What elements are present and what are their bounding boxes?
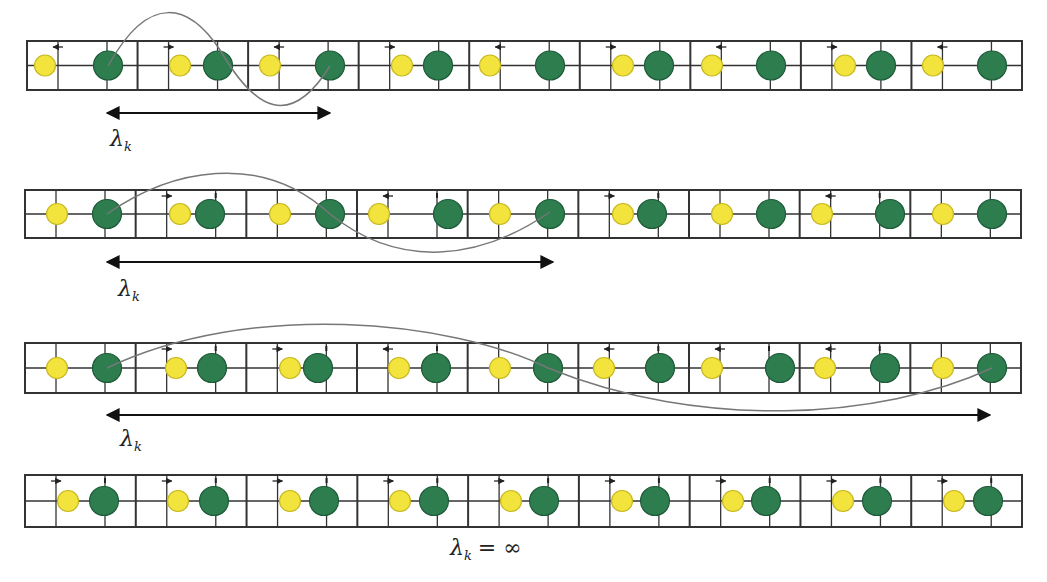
light-atom: [369, 204, 390, 225]
phonon-chain-diagram: [0, 0, 1047, 582]
heavy-atom: [200, 487, 229, 516]
heavy-atom: [310, 487, 339, 516]
light-atom: [501, 491, 522, 512]
heavy-atom: [316, 51, 345, 80]
heavy-atom: [536, 200, 565, 229]
light-atom: [166, 358, 187, 379]
light-atom: [835, 55, 856, 76]
heavy-atom: [863, 487, 892, 516]
heavy-atom: [876, 200, 905, 229]
wavelength-label: λk: [110, 126, 132, 154]
atom-chain-3: [25, 324, 1021, 415]
heavy-atom: [757, 200, 786, 229]
heavy-atom: [204, 51, 233, 80]
light-atom: [702, 55, 723, 76]
atom-chain-1: [27, 13, 1022, 113]
heavy-atom: [304, 354, 333, 383]
light-atom: [58, 491, 79, 512]
light-atom: [47, 204, 68, 225]
light-atom: [723, 491, 744, 512]
light-atom: [280, 358, 301, 379]
light-atom: [35, 55, 56, 76]
atom-chain-2: [25, 173, 1021, 262]
heavy-atom: [867, 51, 896, 80]
heavy-atom: [645, 51, 674, 80]
light-atom: [933, 204, 954, 225]
heavy-atom: [766, 354, 795, 383]
light-atom: [833, 491, 854, 512]
heavy-atom: [536, 51, 565, 80]
light-atom: [280, 491, 301, 512]
heavy-atom: [434, 200, 463, 229]
heavy-atom: [978, 51, 1007, 80]
atom-chain-4: [25, 475, 1022, 527]
light-atom: [168, 491, 189, 512]
heavy-atom: [974, 487, 1003, 516]
wavelength-label: λk= ∞: [450, 535, 522, 563]
light-atom: [613, 204, 634, 225]
light-atom: [392, 55, 413, 76]
heavy-atom: [530, 487, 559, 516]
light-atom: [944, 491, 965, 512]
light-atom: [389, 358, 410, 379]
light-atom: [702, 358, 723, 379]
light-atom: [260, 55, 281, 76]
heavy-atom: [196, 200, 225, 229]
heavy-atom: [424, 51, 453, 80]
heavy-atom: [646, 354, 675, 383]
light-atom: [594, 358, 615, 379]
light-atom: [612, 491, 633, 512]
light-atom: [933, 358, 954, 379]
wavelength-label: λk: [118, 276, 140, 304]
heavy-atom: [752, 487, 781, 516]
light-atom: [47, 358, 68, 379]
light-atom: [712, 204, 733, 225]
heavy-atom: [757, 51, 786, 80]
light-atom: [923, 55, 944, 76]
heavy-atom: [638, 200, 667, 229]
light-atom: [170, 204, 191, 225]
wavelength-label: λk: [120, 426, 142, 454]
light-atom: [270, 204, 291, 225]
heavy-atom: [198, 354, 227, 383]
heavy-atom: [90, 487, 119, 516]
light-atom: [480, 55, 501, 76]
heavy-atom: [978, 200, 1007, 229]
heavy-atom: [641, 487, 670, 516]
light-atom: [490, 204, 511, 225]
light-atom: [390, 491, 411, 512]
light-atom: [170, 55, 191, 76]
light-atom: [490, 358, 511, 379]
light-atom: [815, 358, 836, 379]
light-atom: [613, 55, 634, 76]
light-atom: [812, 204, 833, 225]
heavy-atom: [871, 354, 900, 383]
heavy-atom: [420, 487, 449, 516]
heavy-atom: [422, 354, 451, 383]
